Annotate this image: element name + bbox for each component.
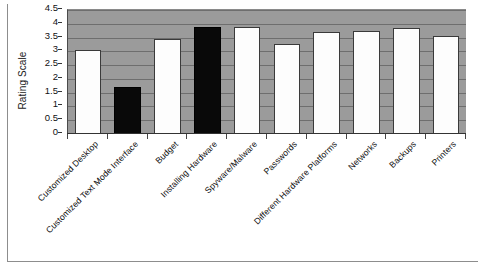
x-axis-tick-mark [226, 134, 227, 139]
gridline [68, 10, 466, 11]
y-axis-title-text: Rating Scale [18, 51, 29, 109]
x-axis-tick-mark [346, 134, 347, 139]
y-axis-tick-labels: 00.511.522.533.544.5 [36, 8, 62, 133]
x-axis-tick-mark [107, 134, 108, 139]
y-axis-tick-mark [58, 91, 62, 92]
chart-title-remnant [66, 0, 366, 2]
y-axis-tick-mark [58, 36, 62, 37]
bar [234, 27, 261, 134]
bar [154, 39, 181, 134]
y-axis-tick-label: 3.5 [45, 31, 58, 41]
y-axis-tick-mark [58, 132, 62, 133]
bar [75, 50, 102, 134]
y-axis-tick-mark [58, 63, 62, 64]
bar [313, 32, 340, 134]
x-axis-category-labels: Customized DesktopCustomized Text Mode I… [0, 139, 485, 259]
bar [194, 27, 221, 134]
bar [353, 31, 380, 134]
x-axis-tick-mark [266, 134, 267, 139]
y-axis-tick-label: 2.5 [45, 58, 58, 68]
y-axis-tick-mark [58, 49, 62, 50]
x-axis-category-label: Customized Desktop [0, 139, 100, 273]
y-axis-tick-label: 4.5 [45, 3, 58, 13]
x-axis-tick-mark [306, 134, 307, 139]
x-axis-tick-mark [425, 134, 426, 139]
bar [433, 36, 460, 134]
y-axis-tick-mark [58, 22, 62, 23]
x-axis-tick-mark [186, 134, 187, 139]
figure-bottom-border [7, 261, 478, 262]
bar [393, 28, 420, 134]
y-axis-title: Rating Scale [16, 34, 30, 126]
chart-figure: Rating Scale 00.511.522.533.544.5 Custom… [0, 0, 485, 273]
y-axis-tick-mark [58, 8, 62, 9]
y-axis-tick-label: 1.5 [45, 86, 58, 96]
gridline [68, 24, 466, 25]
y-axis-tick-mark [58, 104, 62, 105]
x-axis-tick-mark [147, 134, 148, 139]
bar [274, 44, 301, 134]
plot-area [67, 9, 466, 134]
x-axis-tick-mark [385, 134, 386, 139]
y-axis-tick-label: 0.5 [45, 113, 58, 123]
y-axis-tick-mark [58, 118, 62, 119]
x-axis-tick-mark [465, 134, 466, 139]
x-axis-tick-mark [67, 134, 68, 139]
y-axis-tick-mark [58, 77, 62, 78]
bar [114, 87, 141, 134]
